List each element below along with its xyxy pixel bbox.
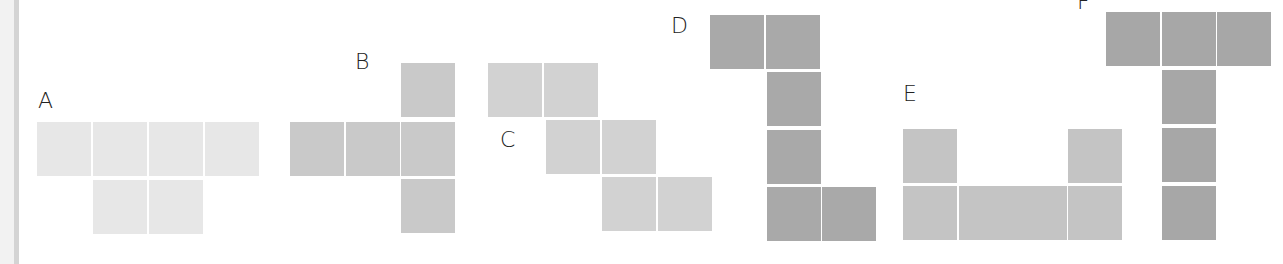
net-square (1162, 186, 1216, 240)
net-square (546, 120, 600, 174)
net-square (766, 15, 820, 69)
net-square (1162, 12, 1216, 66)
net-square (401, 179, 455, 233)
net-square (1162, 70, 1216, 124)
net-square (1068, 129, 1122, 183)
figure-label: F (1077, 0, 1090, 13)
net-square (658, 177, 712, 231)
net-square (1217, 12, 1271, 66)
net-square (149, 180, 203, 234)
net-square (710, 15, 764, 69)
net-square (1106, 12, 1160, 66)
net-square (959, 186, 1013, 240)
figure-label: C (500, 129, 515, 151)
net-square (1013, 186, 1067, 240)
net-square (822, 187, 876, 241)
net-square (602, 177, 656, 231)
net-square (401, 122, 455, 176)
figure-label: A (38, 90, 53, 112)
figure-label: D (671, 15, 688, 37)
net-square (602, 120, 656, 174)
net-square (1068, 186, 1122, 240)
net-square (1162, 128, 1216, 182)
net-square (767, 130, 821, 184)
net-square (93, 180, 147, 234)
net-square (205, 122, 259, 176)
net-square (290, 122, 344, 176)
figure-label: B (355, 51, 369, 73)
net-square (488, 63, 542, 117)
net-square (903, 186, 957, 240)
net-square (903, 129, 957, 183)
net-square (346, 122, 400, 176)
margin-divider (14, 0, 19, 264)
net-square (544, 63, 598, 117)
net-square (767, 187, 821, 241)
net-square (149, 122, 203, 176)
figure-label: E (903, 83, 917, 105)
net-square (767, 72, 821, 126)
page-margin (0, 0, 14, 264)
net-square (37, 122, 91, 176)
net-square (401, 63, 455, 117)
net-square (93, 122, 147, 176)
